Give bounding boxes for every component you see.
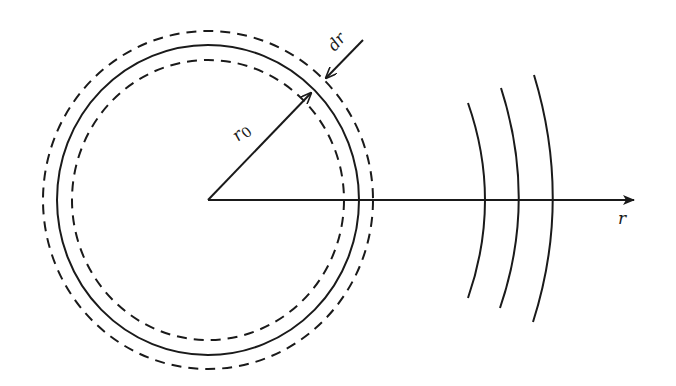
spherical-shell-diagram: r0 dr r bbox=[0, 0, 676, 386]
wavefront-arc-3 bbox=[533, 75, 553, 322]
thickness-label: dr bbox=[324, 28, 351, 55]
radius-label: r0 bbox=[228, 119, 255, 147]
diagram-svg: r0 dr r bbox=[0, 0, 676, 386]
radius-arrow bbox=[208, 93, 311, 200]
axis-label: r bbox=[618, 208, 627, 228]
wavefront-arc-2 bbox=[500, 88, 519, 308]
